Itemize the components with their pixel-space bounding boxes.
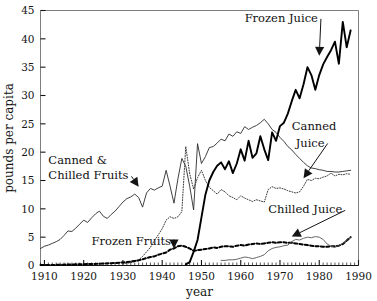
x-tick-label: 1990 [345,270,372,282]
x-tick-label: 1970 [267,270,294,282]
annotation-label: Frozen Fruits [92,234,172,248]
x-tick-label: 1910 [31,270,58,282]
y-tick-label: 40 [21,33,34,45]
annotation-label: Chilled Fruits [48,168,128,182]
x-tick-label: 1980 [306,270,333,282]
annotation-arrowhead [315,47,324,56]
annotation-leader-line [320,19,321,47]
y-axis-title: pounds per capita [2,83,16,193]
y-tick-label: 20 [21,146,34,158]
x-tick-label: 1930 [110,270,137,282]
x-tick-label: 1960 [227,270,254,282]
annotation-arrowhead [304,168,313,178]
chart-canvas: 1910192019301940195019601970198019900510… [0,0,377,301]
series-line-chilled-juice [221,237,351,261]
y-tick-label: 35 [21,61,34,73]
x-tick-label: 1940 [149,270,176,282]
x-axis-title: year [185,285,213,299]
y-tick-label: 15 [21,174,34,186]
x-tick-label: 1920 [70,270,97,282]
y-tick-label: 5 [28,231,35,243]
annotation-label: Frozen Juice [245,11,318,25]
annotation-label: Chilled Juice [268,202,342,216]
series-line-frozen-juice [186,22,351,265]
y-tick-label: 0 [28,259,35,271]
y-tick-label: 45 [21,4,34,16]
y-tick-label: 10 [21,203,34,215]
y-tick-label: 30 [21,89,34,101]
annotation-label: Canned & [48,153,107,167]
annotation-label: Juice [295,136,325,150]
series-line-frozen-fruits [41,237,351,265]
annotation-leader-line [132,176,134,179]
annotation-label: Canned [292,119,337,133]
chart-figure: 1910192019301940195019601970198019900510… [0,0,377,301]
annotation-arrowhead [130,177,139,187]
y-tick-label: 25 [21,118,34,130]
x-tick-label: 1950 [188,270,215,282]
